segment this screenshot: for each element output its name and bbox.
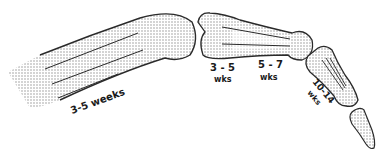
proximal-phalanx-bone — [198, 13, 313, 60]
proximal-head-healing-label: 5 - 7 — [258, 59, 283, 70]
distal-phalanx-bone — [350, 108, 375, 148]
bones-illustration: 3-5 weeks 3 - 5 wks 5 - 7 wks 10-14 wks — [0, 0, 385, 155]
finger-bone-diagram: 3-5 weeks 3 - 5 wks 5 - 7 wks 10-14 wks — [0, 0, 385, 155]
proximal-head-weeks-label: wks — [260, 73, 278, 82]
proximal-base-healing-label: 3 - 5 — [210, 62, 235, 73]
proximal-base-weeks-label: wks — [214, 75, 232, 84]
